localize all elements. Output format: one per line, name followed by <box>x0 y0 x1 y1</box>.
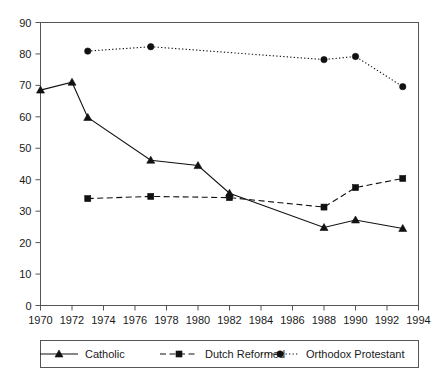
data-point-marker <box>321 56 327 62</box>
y-tick-label: 30 <box>19 205 31 217</box>
series-orthodox-protestant <box>85 44 406 90</box>
data-point-marker <box>400 175 406 181</box>
y-tick-label: 40 <box>19 174 31 186</box>
data-point-marker <box>84 113 92 120</box>
x-tick-label: 1974 <box>91 314 115 326</box>
y-tick-label: 60 <box>19 111 31 123</box>
data-point-marker <box>353 185 359 191</box>
y-tick-label: 70 <box>19 79 31 91</box>
x-axis-ticks <box>41 306 419 311</box>
x-tick-label: 1980 <box>186 314 210 326</box>
data-point-marker <box>148 193 154 199</box>
x-tick-label: 1990 <box>343 314 367 326</box>
data-point-marker <box>68 78 76 85</box>
y-tick-label: 10 <box>19 268 31 280</box>
series-catholic <box>37 78 407 231</box>
y-tick-label: 50 <box>19 142 31 154</box>
x-tick-label: 1976 <box>123 314 147 326</box>
y-tick-label: 0 <box>25 300 31 312</box>
legend-marker <box>277 351 283 357</box>
series-layer <box>37 44 407 232</box>
y-tick-label: 80 <box>19 48 31 60</box>
legend-item-catholic[interactable]: Catholic <box>40 348 125 360</box>
data-point-marker <box>85 196 91 202</box>
legend: CatholicDutch ReformedOrthodox Protestan… <box>40 341 419 368</box>
legend-marker <box>176 351 182 357</box>
data-point-marker <box>85 48 91 54</box>
x-tick-label: 1978 <box>154 314 178 326</box>
x-tick-label: 1972 <box>60 314 84 326</box>
legend-item-dutch-reformed[interactable]: Dutch Reformed <box>160 348 285 360</box>
legend-entries: CatholicDutch ReformedOrthodox Protestan… <box>40 348 404 360</box>
plot-frame <box>41 23 419 306</box>
x-tick-label: 1986 <box>280 314 304 326</box>
data-point-marker <box>227 195 233 201</box>
x-tick-label: 1992 <box>375 314 399 326</box>
data-point-marker <box>400 83 406 89</box>
data-point-marker <box>352 53 358 59</box>
x-tick-label: 1994 <box>406 314 430 326</box>
line-chart-canvas: 0102030405060708090 19701972197419761978… <box>0 0 442 378</box>
data-point-marker <box>321 204 327 210</box>
data-point-marker <box>148 44 154 50</box>
legend-label: Catholic <box>85 348 125 360</box>
legend-label: Orthodox Protestant <box>306 348 404 360</box>
legend-label: Dutch Reformed <box>205 348 285 360</box>
chart-root: 0102030405060708090 19701972197419761978… <box>0 0 442 378</box>
y-tick-label: 20 <box>19 237 31 249</box>
series-line <box>41 82 403 228</box>
data-point-marker <box>352 216 360 223</box>
series-dutch-reformed <box>85 175 406 210</box>
x-tick-label: 1988 <box>312 314 336 326</box>
data-point-marker <box>147 156 155 163</box>
series-line <box>88 47 403 87</box>
x-tick-label: 1982 <box>217 314 241 326</box>
x-axis-tick-labels: 1970197219741976197819801982198419861988… <box>28 314 430 326</box>
y-tick-label: 90 <box>19 17 31 29</box>
y-axis-ticks <box>36 23 41 306</box>
x-tick-label: 1984 <box>249 314 273 326</box>
x-tick-label: 1970 <box>28 314 52 326</box>
series-line <box>88 178 403 207</box>
y-axis-tick-labels: 0102030405060708090 <box>19 17 31 312</box>
